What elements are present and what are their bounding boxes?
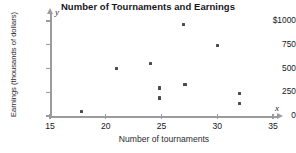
x-axis-title: Number of tournaments <box>50 134 278 144</box>
x-tick-label: 30 <box>202 121 232 131</box>
data-point <box>149 62 152 65</box>
x-tick-mark <box>272 114 273 119</box>
y-axis-line <box>50 13 52 117</box>
y-axis-arrow-icon <box>47 8 53 14</box>
data-point <box>238 92 241 95</box>
y-tick-mark <box>46 68 51 69</box>
x-tick-mark <box>105 114 106 119</box>
y-axis-variable-label: y <box>55 7 59 17</box>
y-tick-mark <box>46 20 51 21</box>
data-point <box>238 102 241 105</box>
data-point <box>115 67 118 70</box>
x-tick-label: 35 <box>258 121 288 131</box>
y-tick-label: 500 <box>252 63 296 73</box>
x-axis-line <box>50 116 278 118</box>
data-point <box>158 86 161 89</box>
data-point <box>158 96 161 99</box>
y-tick-label: 750 <box>252 39 296 49</box>
data-point <box>216 44 219 47</box>
x-axis-variable-label: x <box>275 103 279 113</box>
data-point <box>182 23 185 26</box>
x-tick-mark <box>49 114 50 119</box>
y-tick-label: 250 <box>252 86 296 96</box>
chart-title: Number of Tournaments and Earnings <box>0 1 296 12</box>
x-axis-arrow-icon <box>277 113 283 119</box>
x-tick-label: 25 <box>147 121 177 131</box>
data-point <box>80 110 83 113</box>
y-tick-mark <box>46 92 51 93</box>
x-tick-mark <box>217 114 218 119</box>
scatter-plot-figure: Number of Tournaments and Earnings y Ear… <box>0 0 296 153</box>
x-tick-label: 20 <box>91 121 121 131</box>
y-axis-title: Earnings (thousands of dollars) <box>9 5 18 125</box>
data-point <box>183 83 186 86</box>
y-tick-mark <box>46 44 51 45</box>
y-tick-label: $1000 <box>252 15 296 25</box>
y-tick-label: 0 <box>252 110 296 120</box>
x-tick-mark <box>161 114 162 119</box>
x-tick-label: 15 <box>35 121 65 131</box>
